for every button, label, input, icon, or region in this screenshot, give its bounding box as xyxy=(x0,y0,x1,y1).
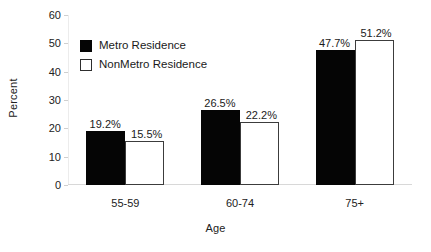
y-tick-label: 0 xyxy=(55,180,61,191)
bar-nonmetro-75+[interactable]: 51.2% xyxy=(355,40,394,185)
y-axis-label: Percent xyxy=(7,63,19,133)
bar-value-label: 22.2% xyxy=(246,110,277,121)
x-tick-label: 75+ xyxy=(345,198,364,209)
bar-metro-60-74[interactable]: 26.5% xyxy=(201,110,240,185)
legend-label: Metro Residence xyxy=(99,40,186,52)
y-tick-mark xyxy=(64,185,68,186)
bar-group: 47.7%51.2%75+ xyxy=(297,15,412,185)
bar-value-label: 26.5% xyxy=(204,98,235,109)
x-tick-label: 60-74 xyxy=(226,198,254,209)
bar-value-label: 47.7% xyxy=(319,38,350,49)
bar-metro-75+[interactable]: 47.7% xyxy=(316,50,355,185)
bar-value-label: 15.5% xyxy=(131,129,162,140)
legend-swatch-icon xyxy=(80,59,92,71)
bar-nonmetro-60-74[interactable]: 22.2% xyxy=(240,122,279,185)
legend-item[interactable]: Metro Residence xyxy=(80,36,207,55)
chart-legend: Metro ResidenceNonMetro Residence xyxy=(80,36,207,74)
y-tick-label: 30 xyxy=(49,95,61,106)
legend-label: NonMetro Residence xyxy=(99,59,207,71)
y-tick-label: 50 xyxy=(49,38,61,49)
y-tick-label: 10 xyxy=(49,151,61,162)
y-tick-label: 40 xyxy=(49,66,61,77)
bar-value-label: 51.2% xyxy=(360,28,391,39)
x-tick-label: 55-59 xyxy=(111,198,139,209)
legend-item[interactable]: NonMetro Residence xyxy=(80,55,207,74)
y-tick-label: 60 xyxy=(49,10,61,21)
y-tick-label: 20 xyxy=(49,123,61,134)
x-axis-label: Age xyxy=(0,222,431,234)
bar-metro-55-59[interactable]: 19.2% xyxy=(86,131,125,185)
bar-nonmetro-55-59[interactable]: 15.5% xyxy=(125,141,164,185)
bar-value-label: 19.2% xyxy=(90,119,121,130)
bar-chart: Percent Age 0102030405060 19.2%15.5%55-5… xyxy=(0,0,431,252)
legend-swatch-icon xyxy=(80,40,92,52)
